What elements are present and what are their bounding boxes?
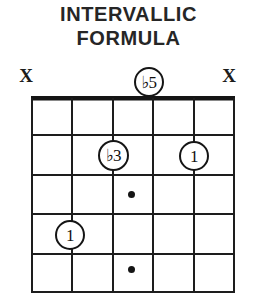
muted-string-marker-right: X xyxy=(220,66,238,85)
degree-marker-flat-five[interactable]: ♭5 xyxy=(134,67,164,97)
degree-marker-root-upper[interactable]: 1 xyxy=(179,141,209,171)
degree-marker-flat-three[interactable]: ♭3 xyxy=(98,140,129,171)
degree-marker-flat-five-label: ♭5 xyxy=(141,73,156,90)
fret-marker-dot-third-fret xyxy=(128,191,135,198)
muted-string-marker-left: X xyxy=(17,66,35,85)
degree-number: 5 xyxy=(149,72,157,91)
degree-number: 3 xyxy=(113,146,121,165)
flat-sign-icon: ♭ xyxy=(106,145,113,165)
page-title: INTERVALLIC FORMULA xyxy=(0,2,257,50)
page-title-line-2: FORMULA xyxy=(0,26,257,50)
flat-sign-icon: ♭ xyxy=(141,71,148,91)
degree-marker-root-upper-label: 1 xyxy=(190,147,198,164)
degree-marker-root-lower[interactable]: 1 xyxy=(55,220,85,250)
degree-marker-flat-three-label: ♭3 xyxy=(106,147,121,164)
fret-marker-dot-fifth-fret xyxy=(128,266,135,273)
page-title-line-1: INTERVALLIC xyxy=(0,2,257,26)
degree-marker-root-lower-label: 1 xyxy=(66,226,74,243)
